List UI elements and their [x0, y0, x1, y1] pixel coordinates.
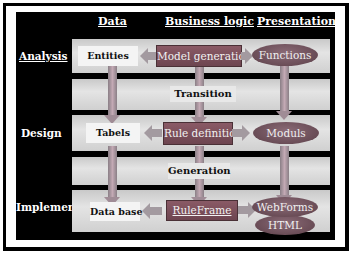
arrow-down-presentation-2 — [280, 146, 289, 196]
entities-box: Entities — [78, 46, 138, 66]
arrow-right-analysis — [241, 52, 245, 60]
column-header-presentation: Presentation — [257, 15, 336, 28]
column-header-business-logic: Business logic — [165, 15, 254, 28]
generation-label: Generation — [168, 163, 230, 179]
arrow-down-data-2 — [108, 146, 117, 198]
arrow-left-implementation — [150, 207, 162, 215]
webforms-ellipse: WebForms — [252, 197, 318, 217]
html-ellipse: HTML — [255, 215, 315, 235]
transition-label: Transition — [170, 86, 236, 102]
arrow-right-design — [232, 129, 242, 137]
moduls-ellipse: Moduls — [253, 122, 319, 144]
column-header-data: Data — [98, 15, 127, 28]
rule-definition-box: Rule definition — [163, 122, 233, 145]
functions-ellipse: Functions — [252, 44, 318, 66]
arrow-right-implementation — [238, 206, 248, 214]
tabels-box: Tabels — [86, 123, 140, 143]
data-base-box: Data base — [90, 202, 140, 221]
arrow-down-presentation-1 — [280, 66, 289, 112]
arrow-down-data-1 — [108, 66, 117, 116]
phase-label-design: Design — [21, 127, 62, 139]
ruleframe-box: RuleFrame — [166, 200, 238, 221]
phase-label-analysis: Analysis — [19, 50, 68, 62]
model-generation-box: Model generation — [156, 45, 242, 67]
arrow-left-design — [152, 129, 162, 137]
